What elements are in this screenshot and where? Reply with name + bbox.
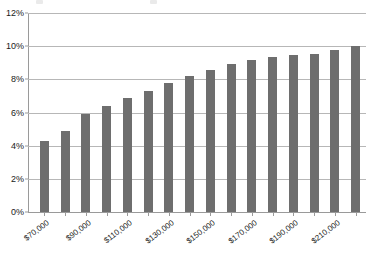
- y-axis-tick-label: 6%: [11, 108, 24, 117]
- bar: [206, 70, 215, 212]
- x-tick-mark: [190, 212, 191, 216]
- x-tick-mark: [252, 212, 253, 216]
- bar: [40, 141, 49, 212]
- x-tick-mark: [335, 212, 336, 216]
- x-tick-mark: [65, 212, 66, 216]
- y-axis-tick-label: 10%: [6, 42, 24, 51]
- x-tick-mark: [127, 212, 128, 216]
- bar: [164, 83, 173, 212]
- x-tick-mark: [293, 212, 294, 216]
- x-tick-mark: [314, 212, 315, 216]
- bar: [227, 64, 236, 212]
- x-tick-mark: [356, 212, 357, 216]
- x-axis-tick-label: $150,000: [186, 219, 217, 245]
- x-axis-tick-label: $190,000: [269, 219, 300, 245]
- x-axis-tick-label: $70,000: [23, 219, 51, 243]
- bar: [351, 46, 360, 212]
- x-axis-tick-label: $170,000: [227, 219, 258, 245]
- bar: [185, 76, 194, 212]
- bar: [289, 55, 298, 212]
- bar: [81, 114, 90, 212]
- x-axis-tick-label: $130,000: [144, 219, 175, 245]
- x-tick-mark: [210, 212, 211, 216]
- x-tick-mark: [86, 212, 87, 216]
- x-tick-mark: [44, 212, 45, 216]
- x-tick-mark: [273, 212, 274, 216]
- x-tick-mark: [107, 212, 108, 216]
- bar: [247, 60, 256, 212]
- bar: [144, 91, 153, 212]
- x-tick-mark: [231, 212, 232, 216]
- bar: [330, 50, 339, 212]
- x-axis-tick-label: $90,000: [65, 219, 93, 243]
- x-tick-mark: [169, 212, 170, 216]
- x-axis-tick-label: $110,000: [103, 219, 134, 245]
- bar-chart: 0%2%4%6%8%10%12% $70,000$90,000$110,000$…: [0, 0, 366, 262]
- y-axis-tick-label: 8%: [11, 75, 24, 84]
- legend-remnant-right-icon: [150, 0, 157, 4]
- bar: [102, 106, 111, 212]
- gridline-0: [28, 212, 366, 213]
- y-axis-tick-label: 4%: [11, 141, 24, 150]
- y-axis-tick-label: 0%: [11, 208, 24, 217]
- legend-remnant-left-icon: [36, 0, 43, 4]
- bar: [310, 54, 319, 212]
- bar: [268, 57, 277, 212]
- plot-area: 0%2%4%6%8%10%12%: [28, 13, 366, 212]
- bar: [123, 98, 132, 212]
- x-axis-tick-label: $210,000: [310, 219, 341, 245]
- bars-group: [28, 13, 366, 212]
- x-tick-mark: [148, 212, 149, 216]
- y-axis-tick-label: 12%: [6, 9, 24, 18]
- bar: [61, 131, 70, 212]
- y-axis-tick-label: 2%: [11, 174, 24, 183]
